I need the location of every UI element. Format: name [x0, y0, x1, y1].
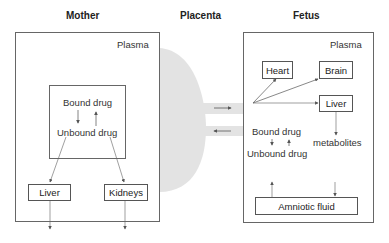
amniotic-fluid-node: Amniotic fluid	[255, 197, 358, 215]
mother-liver-node: Liver	[28, 184, 71, 201]
mother-unbound-drug: Unbound drug	[57, 127, 117, 138]
fetus-heart-node: Heart	[262, 61, 293, 79]
placenta-channel-upper	[200, 103, 244, 114]
fetus-liver-node: Liver	[319, 95, 353, 112]
fetus-bound-drug: Bound drug	[252, 126, 301, 137]
fetus-metabolites: metabolites	[313, 137, 362, 148]
fetus-unbound-drug: Unbound drug	[247, 148, 307, 159]
fetus-brain-node: Brain	[319, 61, 353, 79]
placenta-shape	[159, 48, 206, 192]
fetus-plasma-label: Plasma	[330, 39, 362, 50]
mother-plasma-label: Plasma	[117, 39, 149, 50]
mother-bound-drug: Bound drug	[63, 97, 112, 108]
mother-kidneys-node: Kidneys	[104, 184, 148, 201]
